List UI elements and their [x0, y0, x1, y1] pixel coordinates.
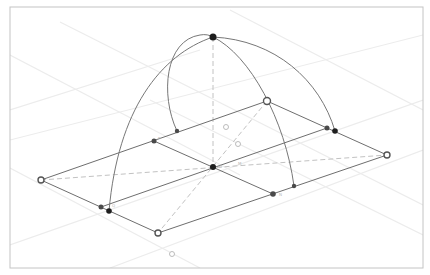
arc-foot-bottom-left[interactable]	[106, 208, 112, 214]
arc-foot-top-left[interactable]	[175, 129, 179, 133]
bottom-vertex-point[interactable]	[155, 230, 161, 236]
left-vertex-point[interactable]	[38, 177, 44, 183]
top-vertex-point[interactable]	[264, 98, 271, 105]
apex-point[interactable]	[210, 34, 217, 41]
diagram-background	[0, 0, 430, 275]
center-point[interactable]	[210, 164, 216, 170]
label-center-right: M	[238, 161, 242, 166]
free-point-2[interactable]	[236, 142, 241, 147]
free-point-1[interactable]	[224, 125, 229, 130]
label-bottom-right: N	[279, 192, 282, 197]
label-bottom-left: Q	[112, 203, 115, 208]
diagram-canvas: OMNPQ	[0, 0, 430, 275]
arc-foot-bottom-right[interactable]	[292, 184, 296, 188]
midpoint-bottom-left[interactable]	[99, 205, 104, 210]
midpoint-bottom-right[interactable]	[270, 191, 276, 197]
geometry-diagram: OMNPQ	[0, 0, 430, 275]
free-point-3[interactable]	[170, 252, 175, 257]
midpoint-top-left[interactable]	[152, 139, 157, 144]
arc-foot-top-right[interactable]	[332, 128, 338, 134]
midpoint-top-right[interactable]	[325, 126, 330, 131]
right-vertex-point[interactable]	[384, 152, 390, 158]
label-center: O	[219, 164, 222, 169]
